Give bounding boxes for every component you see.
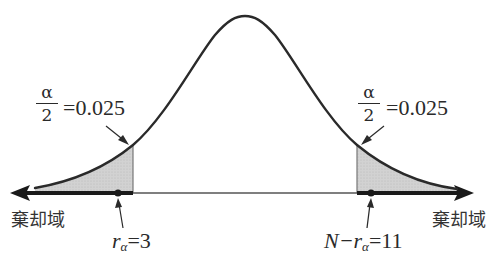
left-critical-value-label: rα=3 [112, 228, 151, 255]
left-critical-symbol: r [112, 228, 121, 253]
left-fraction-numerator: α [39, 84, 54, 103]
left-alpha-fraction: α 2 [36, 84, 58, 124]
right-critical-dot [367, 189, 374, 196]
right-critical-subscript: α [362, 239, 369, 254]
right-critical-equals: =11 [369, 228, 403, 253]
right-fraction-numerator: α [361, 84, 376, 103]
right-critical-pointer [367, 204, 370, 228]
left-critical-pointer [119, 204, 123, 228]
normal-distribution-diagram [0, 0, 503, 269]
left-critical-arrowhead-icon [115, 198, 122, 208]
right-alpha-value: =0.025 [386, 95, 448, 121]
right-critical-prefix: N− [324, 228, 354, 253]
left-fraction-denominator: 2 [42, 104, 53, 124]
left-rejection-region-label: 棄却域 [11, 205, 65, 231]
left-critical-equals: =3 [127, 228, 150, 253]
right-critical-value-label: N−rα=11 [324, 228, 403, 255]
left-critical-dot [114, 189, 121, 196]
right-rejection-region-label: 棄却域 [432, 205, 486, 231]
right-critical-arrowhead-icon [367, 198, 374, 208]
left-alpha-value: =0.025 [63, 95, 125, 121]
right-alpha-fraction: α 2 [358, 84, 380, 124]
right-fraction-denominator: 2 [364, 104, 375, 124]
right-critical-symbol: r [354, 228, 363, 253]
